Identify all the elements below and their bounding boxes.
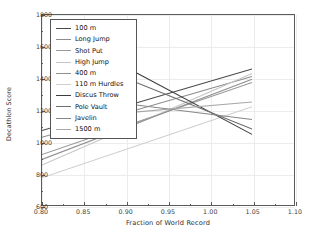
legend-label: Pole Vault	[75, 104, 107, 111]
y-tick-label: 1800	[36, 11, 52, 18]
legend-item: 100 m	[53, 23, 133, 34]
legend-swatch-icon	[56, 95, 71, 96]
x-tick	[211, 202, 212, 206]
x-tick-minor	[275, 204, 276, 206]
legend-swatch-icon	[56, 73, 71, 74]
x-tick-label: 1.05	[245, 208, 259, 215]
x-tick-minor	[148, 204, 149, 206]
legend-item: 110 m Hurdles	[53, 79, 133, 90]
legend-swatch-icon	[56, 84, 71, 85]
legend-item: Pole Vault	[53, 101, 133, 112]
legend-label: 1500 m	[75, 126, 100, 133]
legend-label: Discus Throw	[75, 92, 119, 99]
x-tick-minor	[106, 204, 107, 206]
chart-figure: 0.800.850.900.951.001.051.10 60080010001…	[0, 0, 314, 239]
y-tick-minor	[41, 159, 43, 160]
y-tick-minor	[41, 127, 43, 128]
legend-item: High Jump	[53, 57, 133, 68]
legend-label: Shot Put	[75, 48, 103, 55]
y-tick-minor	[41, 95, 43, 96]
x-tick-minor	[233, 204, 234, 206]
legend-label: 400 m	[75, 70, 96, 77]
x-tick-label: 0.85	[76, 208, 90, 215]
x-tick-minor	[296, 204, 297, 206]
legend-swatch-icon	[56, 28, 71, 29]
x-tick-minor	[190, 204, 191, 206]
legend-swatch-icon	[56, 50, 71, 51]
y-tick-minor	[41, 191, 43, 192]
x-tick	[84, 202, 85, 206]
x-tick-label: 0.95	[161, 208, 175, 215]
y-tick-label: 600	[36, 203, 48, 210]
y-tick-minor	[41, 31, 43, 32]
x-tick-label: 0.90	[118, 208, 132, 215]
x-tick	[169, 202, 170, 206]
x-tick-minor	[63, 204, 64, 206]
legend-swatch-icon	[56, 39, 71, 40]
legend-label: 100 m	[75, 25, 96, 32]
legend-label: Javelin	[75, 115, 97, 122]
legend: 100 mLong JumpShot PutHigh Jump400 m110 …	[50, 19, 137, 139]
x-axis-title: Fraction of World Record	[41, 219, 295, 227]
legend-label: 110 m Hurdles	[75, 81, 123, 88]
legend-item: Javelin	[53, 113, 133, 124]
y-tick-label: 1000	[36, 139, 52, 146]
gridline-vertical	[296, 15, 297, 205]
legend-item: Long Jump	[53, 34, 133, 45]
y-axis-title: Decathlon Score	[5, 74, 13, 154]
legend-swatch-icon	[56, 129, 71, 130]
x-tick	[254, 202, 255, 206]
y-tick-label: 800	[36, 171, 48, 178]
x-tick	[127, 202, 128, 206]
x-tick-label: 1.00	[203, 208, 217, 215]
legend-item: 400 m	[53, 68, 133, 79]
legend-label: High Jump	[75, 59, 109, 66]
legend-swatch-icon	[56, 106, 71, 107]
legend-swatch-icon	[56, 118, 71, 119]
legend-item: Shot Put	[53, 45, 133, 56]
legend-item: Discus Throw	[53, 90, 133, 101]
x-tick-label: 1.10	[288, 208, 302, 215]
y-tick-minor	[41, 63, 43, 64]
legend-label: Long Jump	[75, 36, 110, 43]
legend-item: 1500 m	[53, 124, 133, 135]
legend-swatch-icon	[56, 62, 71, 63]
